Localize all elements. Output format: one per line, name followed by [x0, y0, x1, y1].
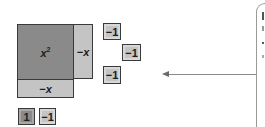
neg-one-tile: −1	[103, 23, 121, 40]
neg-x-label: −x	[77, 46, 90, 58]
cut-off-text	[262, 26, 264, 31]
neg-one-label: −1	[106, 26, 119, 38]
cut-off-text	[262, 42, 264, 44]
callout-bracket	[256, 3, 265, 127]
neg-one-tile: −1	[103, 66, 121, 84]
cut-off-text	[262, 55, 264, 58]
cut-off-text	[262, 12, 264, 20]
arrow-head-icon	[162, 71, 169, 77]
neg-one-label: −1	[125, 47, 138, 59]
one-label: 1	[23, 111, 29, 123]
neg-x-horizontal-tile: −x	[17, 79, 74, 98]
x-squared-label: x2	[40, 46, 50, 59]
neg-one-label: −1	[41, 111, 54, 123]
neg-one-tile: −1	[122, 44, 141, 61]
neg-one-label: −1	[106, 69, 119, 81]
neg-x-label: −x	[39, 83, 52, 95]
neg-one-tile: −1	[39, 108, 56, 125]
neg-x-vertical-tile: −x	[73, 24, 93, 79]
pointer-arrow-line	[166, 74, 256, 75]
one-tile: 1	[18, 108, 35, 125]
x-squared-tile: x2	[17, 24, 74, 80]
